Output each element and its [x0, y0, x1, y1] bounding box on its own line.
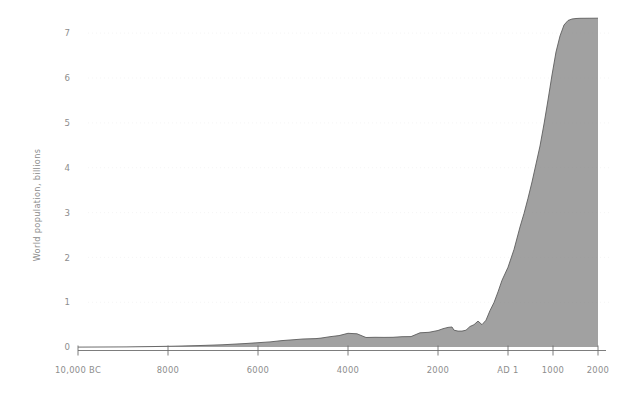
x-tick-labels: 10,000 BC 8000 6000 4000 2000 AD 1 1000 … [55, 365, 609, 375]
x-tick-label-3: 4000 [337, 365, 360, 375]
y-tick-labels: 0 1 2 3 4 5 6 7 [65, 28, 70, 352]
y-tick-label-2: 2 [65, 253, 70, 263]
y-tick-label-4: 4 [65, 163, 70, 173]
x-tick-label-1: 8000 [157, 365, 180, 375]
x-tick-label-6: 1000 [542, 365, 565, 375]
x-tick-label-0: 10,000 BC [55, 365, 101, 375]
y-tick-label-6: 6 [65, 73, 70, 83]
y-tick-label-3: 3 [65, 208, 70, 218]
population-area-series [78, 18, 598, 347]
y-tick-label-5: 5 [65, 118, 70, 128]
population-area-chart: 10,000 BC 8000 6000 4000 2000 AD 1 1000 … [0, 0, 640, 405]
y-axis-title: World population, billions [32, 149, 42, 262]
y-tick-label-1: 1 [65, 297, 70, 307]
y-tick-label-7: 7 [65, 28, 70, 38]
population-area-fill [78, 18, 598, 347]
y-tick-label-0: 0 [65, 342, 70, 352]
x-tick-label-5: AD 1 [497, 365, 518, 375]
chart-figure: 10,000 BC 8000 6000 4000 2000 AD 1 1000 … [0, 0, 640, 405]
x-tick-label-4: 2000 [427, 365, 450, 375]
x-tick-label-2: 6000 [247, 365, 270, 375]
x-tick-label-7: 2000 [587, 365, 610, 375]
